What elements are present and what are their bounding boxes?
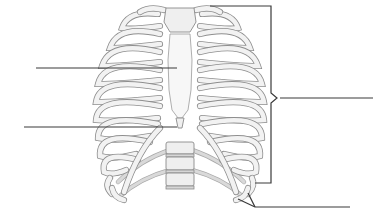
thoracic-cage-diagram — [0, 0, 392, 224]
right-ribs — [200, 13, 264, 200]
manubrium — [164, 8, 196, 32]
sternum-body — [168, 34, 192, 118]
left-ribs — [96, 13, 160, 200]
xiphoid-process — [176, 118, 184, 128]
vertebral-column — [166, 142, 194, 189]
